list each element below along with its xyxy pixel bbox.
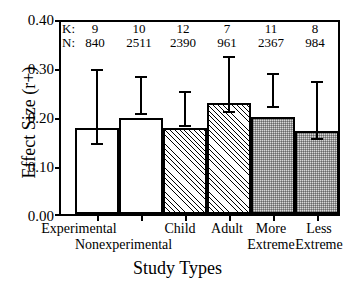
error-bar-cap-bottom xyxy=(91,143,103,145)
bar-6 xyxy=(295,131,339,214)
bar-5 xyxy=(251,117,295,214)
x-axis-tick-4 xyxy=(229,214,231,221)
x-axis-tick-2 xyxy=(141,214,143,221)
x-axis-tick-3 xyxy=(185,214,187,221)
error-bar-line xyxy=(228,56,230,112)
x-tick-label-nonexperimental: Nonexperimental xyxy=(75,237,171,252)
y-tick-label-010: 0.10 xyxy=(8,160,54,175)
effect-size-bar-chart: Effect Size (r+) 0.40 0.30 0.20 0.10 0.0… xyxy=(0,0,355,284)
error-bar-cap-top xyxy=(91,69,103,71)
y-axis-tick-010 xyxy=(55,167,61,169)
x-tick-label-less-extreme: Extreme xyxy=(286,237,352,252)
error-bar-cap-bottom xyxy=(311,138,323,140)
n-value-5: 2367 xyxy=(249,36,293,50)
x-tick-label-experimental: Experimental xyxy=(31,221,127,236)
bar-4 xyxy=(207,103,251,214)
k-value-4: 7 xyxy=(205,22,249,36)
y-axis-tick-labels: 0.40 0.30 0.20 0.10 0.00 xyxy=(0,0,54,284)
y-tick-label-030: 0.30 xyxy=(8,62,54,77)
error-bar-cap-top xyxy=(311,81,323,83)
error-bar-line xyxy=(316,81,318,140)
k-value-5: 11 xyxy=(249,22,293,36)
k-value-1: 9 xyxy=(73,22,117,36)
error-bar-cap-bottom xyxy=(135,113,147,115)
error-bar-cap-bottom xyxy=(223,111,235,113)
n-value-3: 2390 xyxy=(161,36,205,50)
error-bar-cap-bottom xyxy=(267,106,279,108)
sample-size-annotations: K: N: 9 840 10 2511 12 2390 7 961 11 236… xyxy=(59,22,340,52)
y-axis-tick-020 xyxy=(55,118,61,120)
y-tick-label-020: 0.20 xyxy=(8,111,54,126)
y-axis-tick-030 xyxy=(55,69,61,71)
error-bar-line xyxy=(272,73,274,107)
n-value-6: 984 xyxy=(293,36,337,50)
x-axis-title: Study Types xyxy=(0,258,355,279)
y-tick-label-040: 0.40 xyxy=(8,13,54,28)
n-value-4: 961 xyxy=(205,36,249,50)
n-value-1: 840 xyxy=(73,36,117,50)
error-bar-line xyxy=(96,69,98,145)
k-value-3: 12 xyxy=(161,22,205,36)
k-value-6: 8 xyxy=(293,22,337,36)
error-bar-cap-top xyxy=(179,91,191,93)
error-bar-cap-top xyxy=(135,76,147,78)
error-bar-cap-top xyxy=(223,56,235,58)
error-bar-line xyxy=(140,76,142,115)
error-bar-line xyxy=(184,91,186,128)
error-bar-cap-bottom xyxy=(179,125,191,127)
x-tick-label-less: Less xyxy=(289,221,349,236)
x-axis-tick-1 xyxy=(97,214,99,221)
n-value-2: 2511 xyxy=(117,36,161,50)
y-axis-tick-000 xyxy=(55,214,61,216)
bar-2 xyxy=(119,118,163,214)
x-axis-tick-6 xyxy=(317,214,319,221)
x-axis-tick-5 xyxy=(273,214,275,221)
bar-3 xyxy=(163,128,207,215)
k-value-2: 10 xyxy=(117,22,161,36)
error-bar-cap-top xyxy=(267,73,279,75)
